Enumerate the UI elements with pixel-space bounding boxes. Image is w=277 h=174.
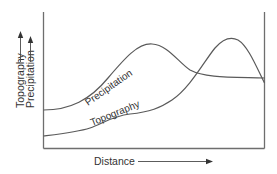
topography-curve-label: Topography	[89, 98, 142, 128]
y-axis-label-precipitation: Precipitation	[24, 50, 36, 108]
arrow-right-icon	[138, 159, 213, 164]
topography-curve	[44, 38, 265, 136]
precipitation-topography-diagram: Precipitation Topography Distance Topogr…	[0, 0, 277, 174]
precipitation-curve	[44, 44, 265, 110]
x-axis-label: Distance	[94, 155, 135, 167]
axis-frame	[44, 12, 265, 149]
